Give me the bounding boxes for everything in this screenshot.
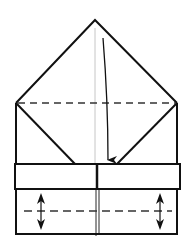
top-triangle-outline [16, 20, 177, 103]
origami-diagram [0, 0, 193, 252]
inner-flap-right [117, 103, 177, 164]
fold-down-arrow-icon [103, 38, 108, 160]
inner-flap-left [16, 103, 75, 164]
